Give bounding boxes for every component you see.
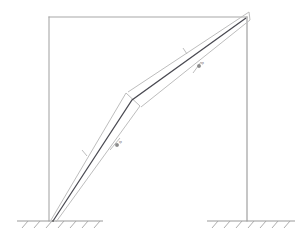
- arm-centerline: [53, 18, 246, 221]
- angle-label-lower-text: φ: [119, 139, 122, 144]
- arm-centerline-group: [53, 18, 246, 221]
- hatch-mark: [248, 221, 254, 228]
- upper-segment-lower-edge: [141, 20, 250, 107]
- hatch-mark: [22, 221, 28, 228]
- angle-label-upper: φ: [193, 60, 204, 73]
- lower-segment-lower-edge: [56, 106, 140, 222]
- hatch-mark: [260, 221, 266, 228]
- figure-root: Articulated boom linkage schematic Two-s…: [0, 0, 303, 244]
- hatch-mark: [34, 221, 40, 228]
- hatch-mark: [224, 221, 230, 228]
- hatch-mark: [236, 221, 242, 228]
- hatch-mark: [272, 221, 278, 228]
- hatch-mark: [212, 221, 218, 228]
- ground-support-left: [17, 221, 103, 228]
- base-pivot-point: [52, 220, 54, 222]
- hatch-mark: [70, 221, 76, 228]
- ground-support-right: [207, 221, 295, 228]
- segment-tick-group: [82, 48, 187, 156]
- hatch-mark: [46, 221, 52, 228]
- lower-segment-upper-edge: [51, 93, 126, 220]
- hatch-mark: [284, 221, 290, 228]
- ground-hatch-left: [22, 221, 100, 228]
- linkage-diagram-svg: Articulated boom linkage schematic Two-s…: [0, 0, 303, 244]
- angle-label-upper-text: φ: [201, 60, 204, 65]
- segment-tick-upper: [183, 48, 187, 54]
- ground-hatch-right: [212, 221, 290, 228]
- pivot-group: [52, 220, 54, 222]
- tip-cap-edge: [249, 12, 250, 20]
- arm-body-outline-group: [51, 12, 250, 222]
- upper-segment-upper-edge: [128, 12, 249, 92]
- hatch-mark: [58, 221, 64, 228]
- segment-tick-lower: [82, 150, 87, 156]
- hatch-mark: [82, 221, 88, 228]
- hatch-mark: [94, 221, 100, 228]
